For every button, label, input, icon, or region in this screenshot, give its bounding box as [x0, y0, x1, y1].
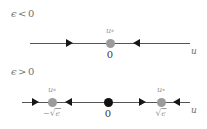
condition-value: 0 [28, 8, 35, 19]
axis-variable-label-u: u [191, 105, 197, 115]
flow-arrow-right [66, 39, 73, 47]
sqrt-group: √ϵ [50, 108, 61, 118]
fixed-point-value-negative-sqrt-epsilon: −√ϵ [43, 108, 61, 118]
phase-line-epsilon-negative: u* 0 u [0, 23, 207, 63]
fixed-point-label-u-star-left: u* [48, 85, 56, 94]
label-star: * [53, 87, 56, 94]
fixed-point-stable-negative-root [48, 98, 57, 107]
condition-label-epsilon-positive: ϵ>0 [11, 66, 35, 77]
radical-icon: √ [155, 108, 161, 118]
phase-line-epsilon-positive: u* u* −√ϵ 0 √ϵ u [0, 82, 207, 122]
condition-label-epsilon-negative: ϵ<0 [11, 8, 35, 19]
axis-variable-label-u: u [191, 46, 197, 56]
label-star: * [162, 87, 165, 94]
fixed-point-unstable-origin [104, 98, 113, 107]
fixed-point-value-zero: 0 [107, 49, 113, 60]
fixed-point-stable-origin [106, 39, 115, 48]
radicand: ϵ [55, 108, 60, 118]
label-star: * [111, 28, 114, 35]
relation-symbol: > [17, 66, 28, 77]
radicand: ϵ [161, 108, 166, 118]
flow-arrow-right-outer-left [32, 98, 39, 106]
bifurcation-diagram: ϵ<0 u* 0 u ϵ>0 u* u* −√ϵ [0, 0, 207, 129]
fixed-point-value-zero: 0 [105, 108, 111, 119]
minus-sign: − [43, 109, 50, 118]
flow-arrow-left-outer-right [173, 98, 180, 106]
condition-value: 0 [28, 66, 35, 77]
flow-arrow-left-inner-left [65, 98, 72, 106]
flow-arrow-left [133, 39, 140, 47]
sqrt-group: √ϵ [155, 108, 166, 118]
fixed-point-stable-positive-root [157, 98, 166, 107]
relation-symbol: < [17, 8, 28, 19]
flow-arrow-right-inner-right [139, 98, 146, 106]
fixed-point-label-u-star-right: u* [157, 85, 165, 94]
fixed-point-value-sqrt-epsilon: √ϵ [155, 108, 166, 118]
fixed-point-label-u-star: u* [106, 26, 114, 35]
